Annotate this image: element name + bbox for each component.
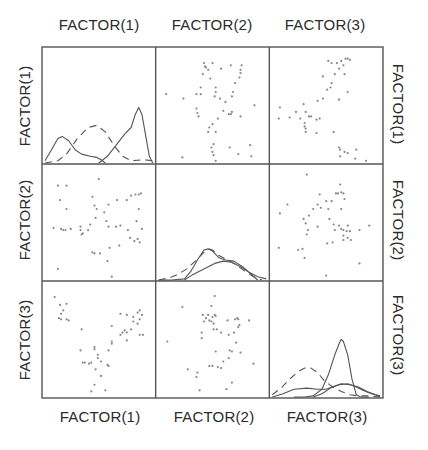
data-point [107,365,109,367]
data-point [224,101,226,103]
data-point [342,229,344,231]
data-point [338,225,340,227]
data-point [331,82,333,84]
data-point [60,318,62,320]
data-point [97,357,99,359]
data-point [310,115,312,117]
data-point [57,185,59,187]
data-point [115,226,117,228]
data-point [250,155,252,157]
data-point [325,200,327,202]
data-point [60,313,62,315]
data-point [107,203,109,205]
data-point [334,73,336,75]
right-label-factor-1: FACTOR(1) [390,64,407,145]
data-point [312,208,314,210]
data-point [365,160,367,162]
data-point [196,112,198,114]
data-point [295,111,297,113]
data-point [230,113,232,115]
data-point [229,146,231,148]
data-point [111,343,113,345]
data-point [338,68,340,70]
data-point [340,191,342,193]
data-point [59,199,61,201]
data-point [118,245,120,247]
data-point [340,228,342,230]
data-point [90,362,92,364]
data-point [349,230,351,232]
data-point [210,146,212,148]
data-point [220,332,222,334]
plot-area [0,0,428,450]
panel-r1-c3 [278,58,367,162]
dashed-density-curve [159,249,262,280]
data-point [99,252,101,254]
data-point [58,317,60,319]
data-point [202,73,204,75]
data-point [215,350,217,352]
data-point [93,346,95,348]
data-point [205,317,207,319]
data-point [96,208,98,210]
data-point [301,248,303,250]
data-point [230,64,232,66]
data-point [106,260,108,262]
data-point [119,334,121,336]
data-point [203,62,205,64]
data-point [124,329,126,331]
data-point [111,340,113,342]
data-point [231,111,233,113]
data-point [181,306,183,308]
data-point [319,193,321,195]
panel-r1-c1 [45,108,153,164]
data-point [297,249,299,251]
data-point [331,200,333,202]
data-point [82,362,84,364]
data-point [65,208,67,210]
data-point [238,324,240,326]
data-point [343,73,345,75]
data-point [304,125,306,127]
data-point [130,328,132,330]
data-point [199,389,201,391]
data-point [201,337,203,339]
data-point [289,116,291,118]
data-point [213,154,215,156]
data-point [217,366,219,368]
data-point [79,226,81,228]
top-label-factor-1: FACTOR(1) [59,16,140,33]
data-point [229,349,231,351]
data-point [207,314,209,316]
data-point [340,208,342,210]
data-point [202,314,204,316]
data-point [139,309,141,311]
data-point [195,108,197,110]
data-point [355,149,357,151]
data-point [236,317,238,319]
data-point [319,118,321,120]
data-point [326,89,328,91]
panel-r3-c3 [272,339,380,397]
data-point [98,178,100,180]
data-point [130,195,132,197]
data-point [138,193,140,195]
data-point [79,349,81,351]
data-point [354,158,356,160]
data-point [299,118,301,120]
bottom-label-factor-3: FACTOR(3) [287,408,368,425]
panel-r2-c1 [53,178,143,278]
panel-r3-c2 [166,295,254,392]
left-label-factor-1: FACTOR(1) [16,66,33,147]
data-point [142,334,144,336]
data-point [278,118,280,120]
data-point [220,367,222,369]
data-point [347,152,349,154]
data-point [326,242,328,244]
top-label-factor-2: FACTOR(2) [172,16,253,33]
data-point [70,228,72,230]
data-point [305,222,307,224]
data-point [208,319,210,321]
data-point [335,192,337,194]
data-point [60,228,62,230]
